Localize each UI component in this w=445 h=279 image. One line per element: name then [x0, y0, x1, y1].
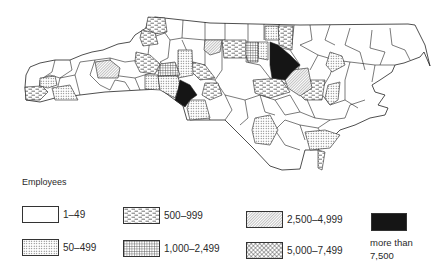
legend-label-line1: more than: [370, 236, 413, 249]
legend-swatch-diagonal: [246, 211, 283, 228]
legend-swatch-solid: [371, 213, 407, 231]
legend-item-over-7500: [371, 213, 407, 231]
legend-swatch-dots: [22, 239, 59, 256]
legend-item-50-499: 50–499: [22, 239, 96, 256]
county-50-499: [178, 50, 193, 78]
legend-swatch-grid: [123, 240, 160, 257]
legend-swatch-blank: [22, 206, 59, 223]
north-carolina-county-map: [0, 0, 445, 172]
legend-item-500-999: 500–999: [123, 207, 203, 224]
legend-label: 1–49: [63, 209, 85, 220]
legend-label-over-7500: more than 7,500: [370, 236, 413, 262]
legend-item-1-49: 1–49: [22, 206, 85, 223]
legend-label: 50–499: [63, 242, 96, 253]
legend-item-5000-7499: 5,000–7,499: [246, 242, 343, 259]
legend-label-line2: 7,500: [370, 249, 413, 262]
legend-label: 1,000–2,499: [164, 243, 220, 254]
legend-label: 5,000–7,499: [287, 245, 343, 256]
county-50-499: [265, 26, 279, 40]
county-50-499: [145, 75, 160, 90]
legend-label: 2,500–4,999: [287, 214, 343, 225]
legend-label: 500–999: [164, 210, 203, 221]
legend-item-2500-4999: 2,500–4,999: [246, 211, 343, 228]
county-500-999: [222, 40, 246, 58]
legend-swatch-crosshatch: [246, 242, 283, 259]
county-1000-2499: [246, 42, 258, 62]
legend-item-1000-2499: 1,000–2,499: [123, 240, 220, 257]
county-50-499: [258, 42, 268, 60]
legend-title: Employees: [22, 177, 67, 187]
legend-swatch-dashes: [123, 207, 160, 224]
county-500-999: [318, 150, 325, 170]
county-50-499: [305, 130, 340, 150]
